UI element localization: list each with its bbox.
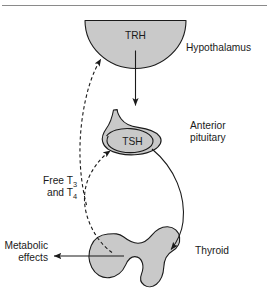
hypothalamus-label: Hypothalamus [186,42,251,53]
anterior-pituitary-label-line1: Anterior [190,120,226,131]
metabolic-effects-label-line2: effects [18,252,48,263]
metabolic-effects-label-line1: Metabolic [4,240,48,251]
free-t4-label: and T4 [47,187,77,201]
feedback-arrow-to-hypothalamus [80,59,101,205]
hpt-axis-diagram: TRH TSH Hypothalamus Anterior pituitary … [0,0,269,303]
tsh-label: TSH [122,136,142,147]
anterior-pituitary-label-line2: pituitary [190,132,227,143]
thyroid-shape [89,227,180,287]
figure-container: TRH TSH Hypothalamus Anterior pituitary … [0,0,269,303]
thyroid-label: Thyroid [195,245,229,256]
trh-label: TRH [125,30,146,41]
